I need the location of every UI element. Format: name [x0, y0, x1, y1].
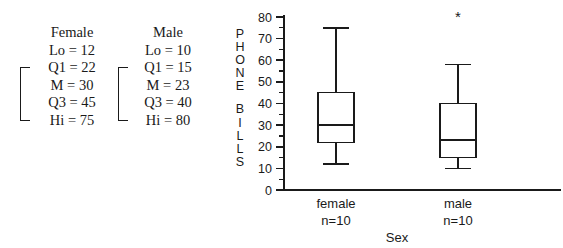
summary-title-male: Male: [122, 24, 214, 42]
x-axis-title: Sex: [386, 230, 409, 245]
y-axis-tick-label: 20: [258, 140, 272, 154]
x-axis-sample-size-label: n=10: [443, 213, 472, 228]
summary-panel: Female Lo = 12 Q1 = 22 M = 30 Q3 = 45 Hi…: [0, 0, 228, 248]
outlier-marker: *: [455, 8, 461, 25]
summary-line-lo-male: Lo = 10: [122, 42, 214, 60]
y-axis-tick-label: 70: [258, 32, 272, 46]
summary-line-hi-female: Hi = 75: [24, 112, 120, 130]
y-axis-tick-label: 60: [258, 54, 272, 68]
y-axis-title-letter: L: [232, 130, 248, 143]
y-axis-tick-label: 80: [258, 11, 272, 25]
box-iqr: [440, 104, 476, 158]
y-axis-tick-label: 10: [258, 162, 272, 176]
y-axis-title-letter: I: [232, 117, 248, 130]
y-axis-title-letter: B: [232, 103, 248, 116]
x-axis-sample-size-label: n=10: [321, 213, 350, 228]
iqr-bracket-male: [118, 67, 128, 121]
y-axis-title-letter: L: [232, 143, 248, 156]
iqr-bracket-female: [20, 67, 30, 121]
y-axis-tick-label: 40: [258, 97, 272, 111]
summary-line-q3-male: Q3 = 40: [122, 94, 214, 112]
summary-block-male: Male Lo = 10 Q1 = 15 M = 23 Q3 = 40 Hi =…: [122, 24, 214, 130]
box-iqr: [318, 93, 354, 143]
summary-block-female: Female Lo = 12 Q1 = 22 M = 30 Q3 = 45 Hi…: [24, 24, 120, 130]
boxplot-chart: P H O N E B I L L S 01020304050607080fem…: [228, 0, 563, 248]
boxplot-svg: 01020304050607080femalen=10*malen=10Sex: [228, 0, 563, 248]
summary-line-q3-female: Q3 = 45: [24, 94, 120, 112]
y-axis-title: P H O N E B I L L S: [232, 28, 248, 169]
summary-line-q1-female: Q1 = 22: [24, 59, 120, 77]
y-axis-tick-label: 0: [265, 184, 272, 198]
summary-line-hi-male: Hi = 80: [122, 112, 214, 130]
y-axis-title-letter: S: [232, 156, 248, 169]
y-axis-tick-label: 50: [258, 75, 272, 89]
summary-title-female: Female: [24, 24, 120, 42]
x-axis-category-label: female: [316, 196, 355, 211]
summary-line-median-male: M = 23: [122, 77, 214, 95]
x-axis-category-label: male: [444, 196, 472, 211]
summary-line-lo-female: Lo = 12: [24, 42, 120, 60]
y-axis-title-letter: E: [232, 80, 248, 93]
summary-line-q1-male: Q1 = 15: [122, 59, 214, 77]
summary-line-median-female: M = 30: [24, 77, 120, 95]
y-axis-tick-label: 30: [258, 119, 272, 133]
